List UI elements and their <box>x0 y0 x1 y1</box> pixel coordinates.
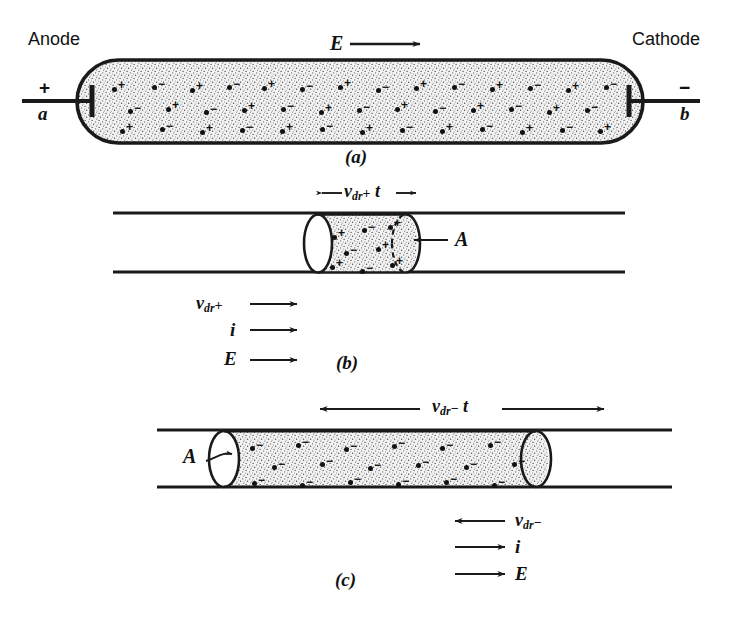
carrier-sign: − <box>302 436 309 448</box>
carrier-dot-icon <box>520 130 525 135</box>
carrier-dot-icon <box>166 107 171 112</box>
carrier-sign: − <box>518 455 525 467</box>
panel-b-vector-vdr-subscript: dr <box>204 301 215 315</box>
carrier-dot-icon <box>362 228 367 233</box>
carrier-dot-icon <box>368 466 373 471</box>
carrier-sign: − <box>402 475 409 487</box>
panel-a-letter: (a) <box>345 147 367 166</box>
carrier-dot-icon <box>392 444 397 449</box>
panel-c-vector-arrows <box>455 521 505 574</box>
panel-c-vector-vdr: vdr− <box>515 511 542 532</box>
carrier-dot-icon <box>464 465 469 470</box>
carrier-sign: − <box>458 78 465 90</box>
carrier-dot-icon <box>319 110 324 115</box>
carrier-dot-icon <box>281 107 286 112</box>
panel-b-length-symbol: v <box>344 181 352 201</box>
carrier-dot-icon <box>376 88 381 93</box>
anode-label: Anode <box>28 30 80 48</box>
panel-c-length-label: vdr− t <box>432 397 468 418</box>
carrier-sign: + <box>572 80 579 92</box>
carrier-dot-icon <box>416 463 421 468</box>
carrier-dot-icon <box>357 108 362 113</box>
carrier-sign: − <box>398 437 405 449</box>
panel-c-vector-field: E <box>515 564 528 583</box>
cathode-label: Cathode <box>632 30 700 48</box>
carrier-sign: + <box>126 121 133 133</box>
carrier-dot-icon <box>112 87 117 92</box>
carrier-sign: − <box>326 120 333 132</box>
carrier-sign: − <box>470 458 477 470</box>
carrier-dot-icon <box>440 446 445 451</box>
carrier-dot-icon <box>528 86 533 91</box>
physics-figure: +−+−+−+−+−+−+−−+−+−+−+−+−+−+−+−+−+−+−+−+… <box>0 0 739 618</box>
carrier-sign: − <box>287 100 294 112</box>
carrier-dot-icon <box>227 85 232 90</box>
carrier-dot-icon <box>280 129 285 134</box>
carrier-sign: − <box>246 121 253 133</box>
carrier-dot-icon <box>444 480 449 485</box>
carrier-sign: − <box>534 79 541 91</box>
panel-c-length-operator: − <box>451 400 459 416</box>
carrier-sign: + <box>338 227 345 239</box>
panel-b-area-label: A <box>455 229 468 249</box>
carrier-sign: − <box>450 473 457 485</box>
carrier-sign: − <box>158 78 165 90</box>
carrier-sign: − <box>350 440 357 452</box>
carrier-sign: + <box>401 99 408 111</box>
carrier-sign: − <box>374 459 381 471</box>
carrier-sign: − <box>368 221 375 233</box>
carrier-sign: − <box>515 100 522 112</box>
carrier-sign: − <box>256 439 263 451</box>
panel-b-vector-current: i <box>230 320 235 339</box>
panel-c-length-symbol: v <box>432 396 440 416</box>
carrier-dot-icon <box>471 108 476 113</box>
carrier-sign: + <box>526 122 533 134</box>
carrier-dot-icon <box>547 110 552 115</box>
carrier-sign: + <box>248 100 255 112</box>
carrier-dot-icon <box>360 269 365 274</box>
carrier-dot-icon <box>200 130 205 135</box>
cathode-sign: − <box>679 78 690 97</box>
carrier-sign: + <box>394 217 401 229</box>
panel-b-vector-field: E <box>224 349 237 368</box>
carrier-dot-icon <box>390 263 395 268</box>
carrier-sign: − <box>326 455 333 467</box>
carrier-dot-icon <box>400 128 405 133</box>
panel-c-vector-current: i <box>515 537 520 556</box>
panel-c-letter: (c) <box>335 570 356 589</box>
carrier-dot-icon <box>395 107 400 112</box>
carrier-sign: − <box>591 101 598 113</box>
carrier-dot-icon <box>452 85 457 90</box>
carrier-dot-icon <box>160 127 165 132</box>
carrier-dot-icon <box>300 483 305 488</box>
panel-c-length-subscript: dr <box>440 404 451 418</box>
panel-c-vector-vdr-operator: − <box>534 514 542 530</box>
carrier-sign: + <box>396 255 403 267</box>
carrier-sign: − <box>498 476 505 488</box>
carrier-dot-icon <box>204 110 209 115</box>
carrier-dot-icon <box>338 85 343 90</box>
carrier-sign: − <box>486 120 493 132</box>
carrier-dot-icon <box>344 251 349 256</box>
panel-c-vector-vdr-subscript: dr <box>523 518 534 532</box>
carrier-dot-icon <box>152 85 157 90</box>
panel-b-vector-vdr-operator: + <box>215 297 223 313</box>
panel-b-vector-arrows <box>250 304 297 360</box>
cathode-terminal-label: b <box>680 104 690 123</box>
carrier-dot-icon <box>604 85 609 90</box>
carrier-dot-icon <box>344 447 349 452</box>
carrier-dot-icon <box>300 87 305 92</box>
carrier-dot-icon <box>296 443 301 448</box>
carrier-sign: + <box>118 79 125 91</box>
panel-a-field-label: E <box>330 33 343 53</box>
panel-b-length-label: vdr+ t <box>344 182 380 203</box>
carrier-dot-icon <box>332 235 337 240</box>
carrier-dot-icon <box>585 108 590 113</box>
carrier-dot-icon <box>414 86 419 91</box>
carrier-dot-icon <box>480 127 485 132</box>
carrier-sign: − <box>406 121 413 133</box>
carrier-sign: − <box>278 458 285 470</box>
carrier-sign: − <box>306 80 313 92</box>
panel-c-length-trailing: t <box>463 396 468 416</box>
carrier-sign: − <box>422 456 429 468</box>
